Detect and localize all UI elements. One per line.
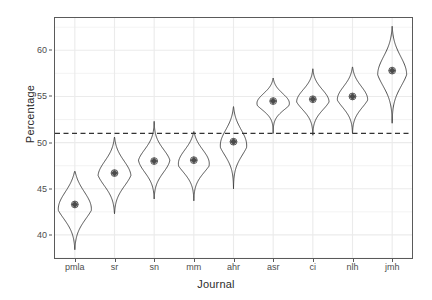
plot-canvas — [0, 0, 432, 300]
violin-plot-figure: Percentage Journal 4045505560 pmlasrsnmm… — [0, 0, 432, 300]
